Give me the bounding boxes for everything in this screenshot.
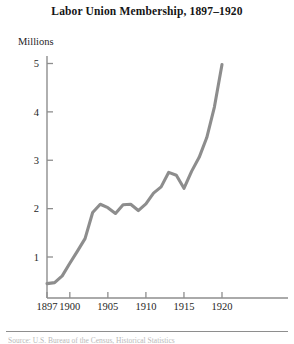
data-series-group <box>47 64 222 283</box>
x-axis-tick-label: 1915 <box>173 301 194 312</box>
y-axis-tick-label: 5 <box>34 58 39 69</box>
data-line-union-membership <box>47 64 222 283</box>
x-axis-tick-label: 1897 <box>37 301 58 312</box>
y-axis-tick-label: 1 <box>34 252 39 263</box>
y-axis-tick-label: 4 <box>34 107 40 118</box>
y-axis: 12345 <box>34 56 53 298</box>
x-axis-tick-label: 1905 <box>97 301 118 312</box>
source-note: Source: U.S. Bureau of the Census, Histo… <box>8 334 288 344</box>
footer-divider <box>6 331 288 332</box>
x-axis-tick-label: 1900 <box>59 301 80 312</box>
chart-figure: Labor Union Membership, 1897–1920 Millio… <box>0 0 294 344</box>
chart-plot-area: 12345 189719001905191019151920 <box>0 0 294 344</box>
y-axis-tick-label: 3 <box>34 155 39 166</box>
x-axis-tick-label: 1920 <box>212 301 233 312</box>
x-axis: 189719001905191019151920 <box>37 292 289 312</box>
y-axis-tick-label: 2 <box>34 203 39 214</box>
x-axis-tick-label: 1910 <box>135 301 156 312</box>
